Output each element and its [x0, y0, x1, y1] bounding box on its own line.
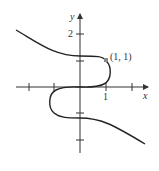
point-label: (1, 1) [110, 51, 132, 63]
point-marker [104, 58, 108, 62]
y-axis-label: y [69, 11, 75, 22]
y-tick-label-2: 2 [68, 28, 73, 39]
x-axis-label: x [142, 90, 148, 101]
x-tick-label-1: 1 [103, 91, 108, 102]
graph: y x 2 1 (1, 1) [0, 0, 159, 171]
